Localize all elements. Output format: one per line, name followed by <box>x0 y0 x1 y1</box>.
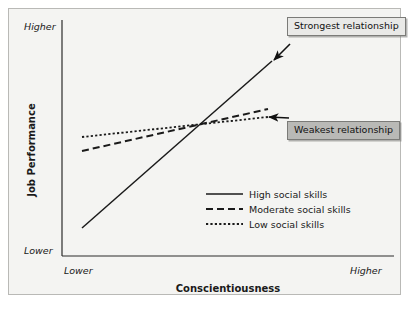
y-axis-low-label: Lower <box>24 246 53 256</box>
strongest-relationship-arrow <box>274 44 290 60</box>
x-axis-title: Conscientiousness <box>62 284 394 294</box>
y-axis-title: Job Performance <box>27 95 37 205</box>
x-axis-low-label: Lower <box>64 266 93 276</box>
series-line-low-social-skills <box>82 117 268 137</box>
annotation-strongest-relationship: Strongest relationship <box>287 17 406 36</box>
y-axis-high-label: Higher <box>24 22 56 32</box>
legend-label-moderate-social-skills: Moderate social skills <box>249 205 351 215</box>
weakest-relationship-arrow <box>269 117 289 118</box>
series-line-high-social-skills <box>82 61 272 228</box>
legend-label-low-social-skills: Low social skills <box>249 220 324 230</box>
legend-label-high-social-skills: High social skills <box>249 190 327 200</box>
annotation-weakest-relationship: Weakest relationship <box>287 121 400 140</box>
series-line-moderate-social-skills <box>82 109 268 151</box>
x-axis-high-label: Higher <box>350 266 382 276</box>
figure-canvas: Higher Lower Job Performance Lower Highe… <box>0 0 411 314</box>
